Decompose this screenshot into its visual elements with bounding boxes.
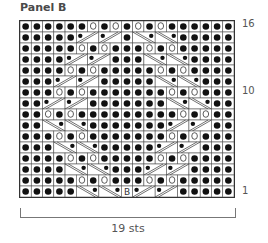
svg-text:B: B — [124, 187, 130, 197]
knitting-chart-grid: B — [19, 20, 235, 198]
row-label-1: 1 — [242, 185, 248, 196]
stitch-count-label: 19 sts — [0, 222, 256, 235]
row-label-16: 16 — [242, 18, 255, 29]
chart-cells: B — [20, 21, 234, 197]
row-label-10: 10 — [242, 85, 255, 96]
width-bracket — [20, 208, 236, 218]
panel-title: Panel B — [20, 1, 66, 14]
